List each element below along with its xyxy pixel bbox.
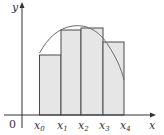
partition-label-x4: x4 — [120, 119, 131, 133]
y-axis-label: y — [11, 1, 19, 14]
partition-label-x1: x1 — [57, 119, 68, 133]
riemann-sum-diagram: y x 0 x0 x1 x2 x3 x4 — [0, 0, 164, 135]
y-axis-arrow-icon — [20, 2, 25, 8]
partition-label-x3: x3 — [99, 119, 110, 133]
rectangle-1 — [40, 55, 62, 115]
rectangle-4 — [103, 42, 124, 115]
rectangle-2 — [61, 30, 81, 115]
x-axis-arrow-icon — [150, 113, 156, 118]
rectangle-3 — [81, 28, 103, 115]
x-axis-label: x — [149, 119, 156, 132]
origin-label: 0 — [9, 118, 16, 131]
partition-label-x0: x0 — [34, 119, 45, 133]
partition-label-x2: x2 — [78, 119, 89, 133]
rectangles — [40, 28, 125, 115]
